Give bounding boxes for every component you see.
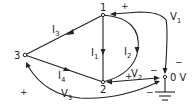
branch-i1: I1 [91, 15, 106, 82]
voltage-v1: + − V1 [110, 1, 183, 74]
label-i2: I2 [124, 46, 131, 60]
node-ref-label: 0 V [170, 72, 187, 83]
v1-arrow-path [112, 12, 167, 73]
arrow-i2-icon [135, 47, 140, 53]
voltage-v3: + − V3 [20, 62, 160, 102]
node-1-label: 1 [100, 2, 106, 13]
node-2-label: 2 [100, 84, 106, 95]
v2-minus: − [150, 65, 158, 75]
node-3-label: 3 [14, 50, 20, 61]
voltage-v2: + − V2 [106, 65, 160, 85]
label-v3: V3 [61, 88, 72, 102]
node-1 [101, 13, 104, 16]
v2-tail-arrowhead-icon [154, 76, 160, 81]
v1-tail-arrowhead-icon [163, 68, 168, 74]
v3-minus: − [146, 87, 154, 97]
label-i3: I3 [52, 24, 59, 38]
node-ref [163, 75, 166, 78]
arrow-i1-icon [101, 49, 106, 55]
circuit-diagram: I3 I4 I1 I2 + − V1 + − V2 [0, 0, 194, 108]
label-v1: V1 [170, 11, 181, 25]
v1-minus: − [175, 57, 183, 67]
v3-tail-arrowhead-icon [154, 81, 160, 86]
v3-arrow-path [28, 66, 158, 98]
label-i1: I1 [91, 47, 98, 61]
arrow-i3-icon [66, 29, 74, 35]
branch-i4: I4 [25, 55, 103, 84]
label-i4: I4 [58, 70, 66, 84]
v1-plus: + [121, 1, 129, 11]
arrow-i4-icon [63, 67, 71, 71]
v3-plus: + [20, 87, 28, 97]
node-3 [23, 53, 27, 57]
